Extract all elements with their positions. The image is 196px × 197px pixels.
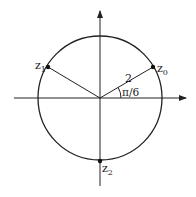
radius-label: 2	[125, 72, 132, 85]
diagram-canvas: z0 z1 z2 2 π/6	[0, 0, 196, 197]
label-z2: z2	[102, 162, 113, 177]
angle-label: π/6	[122, 86, 139, 98]
radius-to-z1	[48, 67, 100, 98]
point-z0	[151, 65, 155, 69]
label-z1: z1	[35, 59, 46, 74]
point-z1	[46, 65, 50, 69]
label-z0: z0	[157, 62, 168, 77]
angle-arc	[118, 88, 121, 99]
